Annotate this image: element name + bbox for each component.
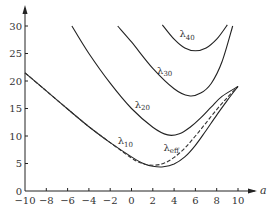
curve-label-lambda-eff: λeff	[163, 142, 179, 156]
x-tick-label: 8	[214, 195, 220, 206]
y-tick-label: 0	[16, 186, 22, 197]
y-tick-label: 30	[9, 21, 22, 32]
y-tick-label: 15	[9, 103, 22, 114]
x-tick-label: 4	[171, 195, 177, 206]
y-tick-label: 25	[9, 48, 22, 59]
chart-canvas: a−10−8−6−4−20246810051015202530 λ10λeffλ…	[0, 0, 273, 214]
curve-label-lambda-10: λ10	[118, 135, 133, 149]
x-tick-label: −6	[60, 195, 75, 206]
curve-label-lambda-30: λ30	[157, 65, 172, 79]
y-axis-arrow-icon	[23, 5, 28, 14]
x-tick-label: −8	[39, 195, 54, 206]
curve-lambda-30	[118, 26, 233, 96]
curve-lambda-10	[25, 73, 238, 167]
curve-label-lambda-40: λ40	[179, 28, 194, 42]
y-tick-label: 20	[9, 76, 22, 87]
x-tick-label: 2	[150, 195, 156, 206]
y-tick-label: 10	[9, 131, 22, 142]
y-tick-label: 5	[16, 158, 22, 169]
x-axis-label: a	[260, 184, 267, 197]
x-tick-label: 0	[128, 195, 134, 206]
x-tick-label: −4	[82, 195, 97, 206]
x-tick-label: −2	[103, 195, 118, 206]
curve-lambda-eff	[25, 73, 238, 165]
x-tick-label: 6	[192, 195, 198, 206]
x-axis-arrow-icon	[248, 189, 257, 194]
x-tick-label: −10	[14, 195, 35, 206]
x-tick-label: 10	[232, 195, 245, 206]
curve-lambda-40	[162, 25, 227, 51]
curve-label-lambda-20: λ20	[135, 99, 150, 113]
